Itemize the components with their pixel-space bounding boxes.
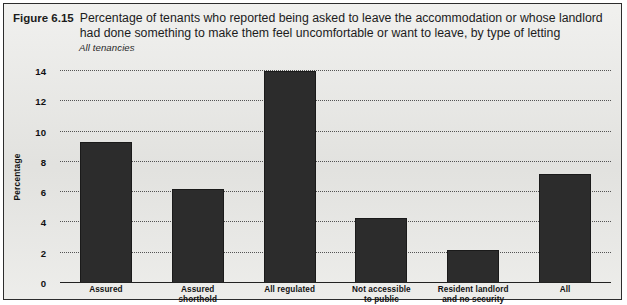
x-tick-label: Resident landlordand no security: [427, 285, 519, 304]
figure-header: Figure 6.15 Percentage of tenants who re…: [4, 4, 621, 53]
y-tick-label: 12: [35, 96, 46, 107]
figure-subtitle: All tenancies: [79, 42, 613, 53]
title-row: Figure 6.15 Percentage of tenants who re…: [13, 11, 613, 40]
x-tick-label: All: [519, 285, 611, 304]
bar[interactable]: [539, 174, 591, 283]
y-tick-label: 2: [41, 247, 46, 258]
y-tick-label: 10: [35, 126, 46, 137]
x-tick-label: All regulated: [244, 285, 336, 304]
bar-slot: [152, 71, 244, 283]
bar[interactable]: [264, 71, 316, 283]
bar[interactable]: [172, 189, 224, 283]
x-tick-label: Not accessibleto public: [335, 285, 427, 304]
x-axis-tick-labels: AssuredAssuredshortholdAll regulatedNot …: [60, 285, 611, 304]
x-axis-line: [60, 282, 611, 284]
figure-number: Figure 6.15: [13, 11, 74, 24]
y-tick-label: 8: [41, 156, 46, 167]
figure-panel: Figure 6.15 Percentage of tenants who re…: [3, 3, 622, 300]
y-tick-label: 4: [41, 217, 46, 228]
bar-slot: [60, 71, 152, 283]
y-tick-label: 14: [35, 66, 46, 77]
y-axis-tick-labels: 02468101214: [4, 71, 54, 283]
plot-area: [60, 71, 611, 283]
bar-slot: [427, 71, 519, 283]
y-tick-label: 0: [41, 278, 46, 289]
bar-slot: [244, 71, 336, 283]
x-tick-label: Assuredshorthold: [152, 285, 244, 304]
bar[interactable]: [355, 218, 407, 283]
bar[interactable]: [447, 250, 499, 283]
figure-title: Percentage of tenants who reported being…: [80, 11, 613, 40]
x-tick-label: Assured: [60, 285, 152, 304]
bar[interactable]: [80, 142, 132, 283]
bar-slot: [519, 71, 611, 283]
bar-series: [60, 71, 611, 283]
bar-slot: [335, 71, 427, 283]
y-tick-label: 6: [41, 187, 46, 198]
